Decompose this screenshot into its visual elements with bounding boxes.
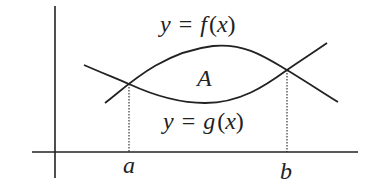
x-label-a: a <box>123 152 135 178</box>
x-label-b: b <box>280 158 292 184</box>
area-between-curves-diagram: y = f(x) A y = g(x) a b <box>0 0 379 194</box>
region-label-a: A <box>195 65 212 91</box>
label-f: y = f(x) <box>158 11 236 37</box>
label-g: y = g(x) <box>161 108 244 134</box>
curve-f <box>105 46 338 103</box>
